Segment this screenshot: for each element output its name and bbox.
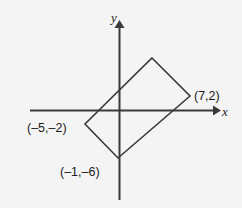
x-axis [30, 106, 221, 116]
vertex-label-right: (7,2) [194, 89, 220, 103]
geometry-diagram: x y (7,2) (–5,–2) (–1,–6) [0, 0, 242, 208]
x-axis-label: x [221, 104, 228, 119]
vertex-label-left: (–5,–2) [27, 121, 67, 135]
vertex-label-bottom: (–1,–6) [60, 165, 100, 179]
y-axis-label: y [109, 10, 117, 25]
x-axis-arrowhead-icon [213, 106, 221, 116]
coordinate-plane-figure: x y (7,2) (–5,–2) (–1,–6) [0, 0, 242, 208]
rectangle-shape [85, 58, 190, 158]
